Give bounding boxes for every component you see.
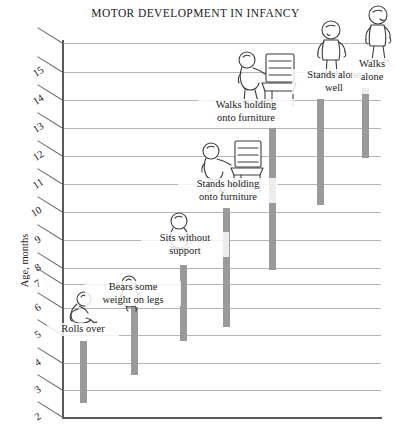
ytick-label-2: 2 [32, 410, 42, 422]
label-rolls-over: Rolls over [47, 323, 119, 336]
gridline-3 [63, 390, 381, 391]
ytick-label-7: 7 [32, 277, 42, 289]
ytick-label-13: 13 [31, 120, 46, 135]
gridline-4 [63, 363, 381, 364]
ytick-label-4: 4 [32, 356, 42, 368]
ytick-label-15: 15 [31, 64, 46, 79]
gridline-10 [63, 212, 381, 213]
tick-8 [37, 252, 63, 269]
x-axis-line [62, 417, 382, 419]
ytick-label-14: 14 [31, 92, 46, 107]
tick-6 [37, 292, 63, 309]
ytick-label-6: 6 [32, 301, 42, 313]
tick-9 [37, 224, 63, 241]
ytick-label-12: 12 [31, 148, 46, 163]
label-sits-without-support: Sits without support [141, 232, 229, 257]
tick-2 [37, 401, 63, 418]
gridline-13 [63, 128, 381, 129]
tick-16 [37, 27, 63, 44]
chart-title: MOTOR DEVELOPMENT IN INFANCY [0, 7, 391, 19]
label-stands-holding: Stands holding onto furniture [178, 178, 278, 203]
ytick-label-11: 11 [31, 176, 45, 191]
ytick-label-5: 5 [32, 328, 42, 340]
tick-3 [37, 374, 63, 391]
toddler-walking-alone-figure [358, 4, 396, 66]
label-bears-weight: Bears some weight on legs [85, 281, 181, 306]
bar-bears-weight [131, 307, 138, 375]
ytick-label-9: 9 [32, 233, 42, 245]
tick-4 [37, 347, 63, 364]
gridline-8 [63, 268, 381, 269]
label-walks-holding: Walks holding onto furniture [198, 99, 294, 124]
ytick-label-10: 10 [29, 204, 44, 219]
label-walks-alone: Walks alone [352, 58, 392, 83]
ytick-label-8: 8 [32, 261, 42, 273]
bar-walks-alone [362, 88, 369, 158]
gridline-6 [63, 308, 381, 309]
bar-stands-alone-well [317, 99, 324, 205]
ytick-label-3: 3 [32, 383, 42, 395]
bar-sits-without-support [180, 265, 187, 341]
bar-rolls-over [80, 341, 87, 403]
y-axis-line [62, 40, 64, 418]
bar-stands-holding [223, 208, 230, 327]
y-axis-title: Age, months [19, 221, 30, 301]
